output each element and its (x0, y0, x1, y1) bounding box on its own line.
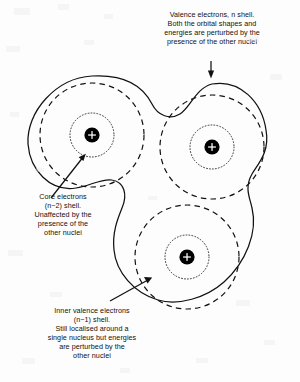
down-arrow-icon-valence (208, 61, 214, 79)
nucleus-group-right (160, 95, 264, 199)
annotation-core-electrons: Core electrons (n−2) shell. Unaffected b… (2, 192, 124, 237)
annotation-inner-valence-electrons: Inner valence electrons (n−1) shell. Sti… (8, 306, 176, 361)
nucleus-group-bottom (135, 205, 239, 309)
nucleus-group-left (40, 83, 144, 187)
figure-root: Valence electrons, n shell. Both the orb… (0, 0, 300, 382)
valence-shell-outline (28, 76, 267, 302)
annotation-valence-electrons: Valence electrons, n shell. Both the orb… (128, 10, 296, 46)
